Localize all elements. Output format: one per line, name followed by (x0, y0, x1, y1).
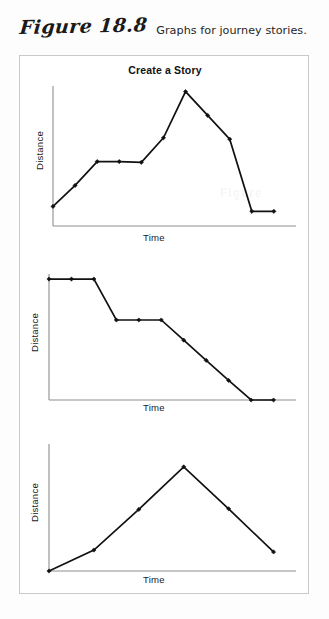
figure-caption-row: Figure 18.8 Graphs for journey stories. (19, 16, 307, 46)
chart-panel-1: Create a Story Distance Time (20, 56, 310, 252)
chart-3-y-axis-label: Distance (29, 460, 40, 522)
chart-2-plot (20, 252, 310, 424)
chart-1-plot (20, 56, 310, 252)
chart-panel-3: Distance Time (20, 424, 310, 595)
figure-number-label: Figure 18.8 (19, 13, 148, 38)
chart-2-y-axis-label: Distance (29, 290, 40, 352)
figure-caption-text: Graphs for journey stories. (156, 24, 307, 37)
chart-2-x-axis-label: Time (143, 402, 165, 413)
figure-frame: Figure Create a Story Distance Time Dist… (19, 55, 309, 594)
data-point-marker (250, 209, 254, 213)
chart-1-y-axis-label: Distance (34, 108, 45, 170)
data-point-marker (117, 160, 121, 164)
chart-panel-2: Distance Time (20, 252, 310, 424)
chart-1-x-axis-label: Time (143, 232, 165, 243)
data-point-marker (47, 277, 51, 281)
chart-3-x-axis-label: Time (143, 574, 165, 585)
data-series-line (53, 92, 274, 212)
data-point-marker (272, 209, 276, 213)
data-series-line (49, 279, 274, 400)
data-point-marker (137, 318, 141, 322)
data-series-line (49, 467, 274, 571)
chart-3-plot (20, 424, 310, 595)
data-point-marker (271, 398, 275, 402)
data-point-marker (69, 277, 73, 281)
